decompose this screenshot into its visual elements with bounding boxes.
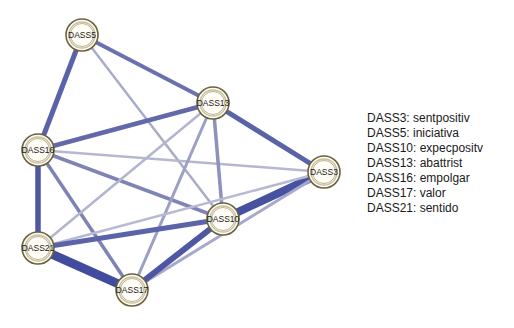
legend-item-dass13: DASS13: abattrist (367, 156, 483, 171)
node-dass5: DASS5 (66, 19, 98, 51)
edge-dass5-dass16 (38, 35, 82, 150)
legend-item-dass16: DASS16: empolgar (367, 171, 483, 186)
legend-item-dass5: DASS5: iniciativa (367, 126, 483, 141)
edge-dass3-dass21 (38, 172, 324, 248)
node-dass17: DASS17 (116, 274, 149, 306)
node-dass21: DASS21 (22, 232, 55, 264)
legend-item-dass3: DASS3: sentpositiv (367, 111, 483, 126)
node-label: DASS5 (68, 30, 96, 40)
edge-dass5-dass13 (82, 35, 213, 103)
node-dass10: DASS10 (207, 203, 240, 235)
edges-layer (38, 35, 324, 290)
legend-item-dass21: DASS21: sentido (367, 201, 483, 216)
node-label: DASS10 (207, 214, 240, 224)
edge-dass16-dass3 (38, 150, 324, 172)
edge-dass13-dass3 (213, 103, 324, 172)
legend-item-dass17: DASS17: valor (367, 186, 483, 201)
node-label: DASS13 (197, 98, 230, 108)
legend: DASS3: sentpositiv DASS5: iniciativa DAS… (367, 111, 483, 216)
node-label: DASS3 (310, 167, 338, 177)
node-label: DASS16 (22, 145, 55, 155)
legend-item-dass10: DASS10: expecpositv (367, 141, 483, 156)
node-dass16: DASS16 (22, 134, 55, 166)
edge-dass16-dass13 (38, 103, 213, 150)
node-label: DASS21 (22, 243, 55, 253)
node-label: DASS17 (116, 285, 149, 295)
node-dass3: DASS3 (308, 156, 340, 188)
node-dass13: DASS13 (197, 87, 230, 119)
